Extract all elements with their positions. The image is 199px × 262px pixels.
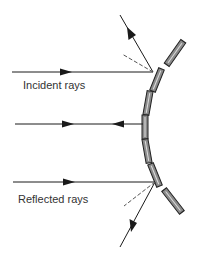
mirror-segment [164,39,185,66]
bottom-reflected-ray [120,182,155,247]
mirror-segment [148,163,163,188]
top-incident-ray [12,69,153,76]
mirror-segment [142,139,152,164]
middle-ray [15,121,143,128]
arrow-left-icon [112,121,124,128]
arrow-right-icon [60,69,72,76]
mirror-segment [143,91,153,116]
incident-rays-label: Incident rays [23,79,85,91]
mirror-segment [142,115,148,139]
mirror-segment [162,188,184,214]
arrow-down-icon [130,219,138,232]
arrow-up-icon [127,27,136,40]
bottom-normal-line [124,182,155,206]
reflected-rays-label: Reflected rays [18,193,88,205]
arrow-right-icon [63,179,75,186]
top-reflected-ray [120,15,153,72]
arrow-right-icon [62,121,74,128]
retroreflector-diagram [0,0,199,262]
bottom-incident-ray [13,179,155,186]
mirror-segments [142,39,186,214]
